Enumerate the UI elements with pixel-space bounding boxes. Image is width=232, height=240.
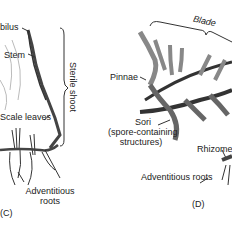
label-adventitious-roots-c-line2: roots (22, 196, 78, 206)
panel-c-id: (C) (0, 208, 13, 218)
label-umbilus: bilus (0, 22, 19, 32)
label-adventitious-roots-c-line1: Adventitious (22, 186, 78, 196)
label-sori-desc-line2: structures) (108, 137, 174, 147)
label-adventitious-roots-c: Adventitious roots (22, 186, 78, 206)
panel-d-id: (D) (192, 199, 205, 209)
label-sori-description: (spore-containing structures) (108, 127, 174, 147)
label-sori-desc-line1: (spore-containing (108, 127, 174, 137)
label-adventitious-roots-d: Adventitious roots (141, 172, 213, 182)
label-pinnae: Pinnae (110, 72, 138, 82)
label-scale-leaves: Scale leaves (0, 112, 51, 122)
label-stem: Stem (4, 50, 25, 60)
label-sori: Sori (135, 117, 151, 127)
label-rhizome: Rhizome (197, 144, 232, 154)
label-sterile-shoot: Sterile shoot (68, 62, 78, 112)
